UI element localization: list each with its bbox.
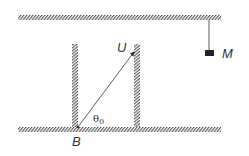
- label-b: B: [72, 134, 81, 149]
- top-ceiling: [18, 15, 221, 20]
- label-m: M: [222, 46, 233, 61]
- bottom-floor: [18, 127, 221, 132]
- label-theta: θ0: [93, 113, 104, 126]
- pendulum-mass: [205, 50, 214, 56]
- velocity-vector: [78, 52, 134, 127]
- point-b-dot: [77, 126, 80, 129]
- physics-diagram: U M B θ0: [0, 0, 249, 156]
- right-wall: [134, 44, 140, 127]
- theta-subscript: 0: [99, 117, 104, 126]
- left-wall: [72, 44, 78, 127]
- label-u: U: [117, 40, 127, 55]
